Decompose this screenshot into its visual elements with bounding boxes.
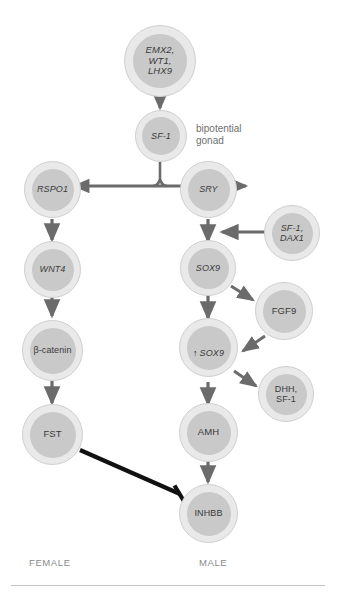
axis-label-female: FEMALE — [29, 557, 71, 568]
node-sf1-inner: SF-1 — [142, 117, 180, 155]
upregulation-arrow-icon: ↑ — [193, 348, 198, 358]
node-wnt4-label: WNT4 — [40, 264, 66, 274]
node-fgf9-label: FGF9 — [272, 306, 297, 317]
edge-fst-inhibits-inhbb — [80, 450, 180, 494]
node-amh-inner: AMH — [187, 411, 231, 455]
edge-sox9-to-fgf9 — [231, 286, 253, 300]
node-inhbb[interactable]: INHBB — [179, 484, 238, 543]
node-sry-inner: SRY — [188, 169, 230, 211]
node-dhh-sf1-label: DHH, SF-1 — [275, 384, 297, 404]
node-progenitor-inner: EMX2, WT1, LHX9 — [133, 34, 187, 88]
node-sox9-upregulated-label: ↑SOX9 — [193, 337, 224, 357]
edge-sox9up-to-dhhsf1 — [234, 371, 256, 386]
node-fst[interactable]: FST — [22, 404, 83, 465]
node-progenitor-label: EMX2, WT1, LHX9 — [145, 45, 174, 77]
node-beta-catenin-label: β-catenin — [33, 345, 71, 355]
node-fgf9-inner: FGF9 — [263, 290, 306, 333]
bottom-divider — [11, 585, 325, 586]
node-sox9-upregulated[interactable]: ↑SOX9 — [179, 318, 238, 377]
node-fgf9[interactable]: FGF9 — [255, 282, 313, 340]
node-rspo1[interactable]: RSPO1 — [24, 161, 81, 218]
node-amh[interactable]: AMH — [179, 403, 238, 462]
node-fst-label: FST — [43, 429, 61, 440]
node-rspo1-label: RSPO1 — [37, 184, 68, 194]
node-sox9-upregulated-inner: ↑SOX9 — [187, 326, 231, 370]
node-sry-label: SRY — [199, 184, 217, 194]
node-beta-catenin[interactable]: β-catenin — [22, 320, 83, 381]
pathway-diagram: EMX2, WT1, LHX9 SF-1 bipotential gonad R… — [0, 0, 338, 595]
node-amh-label: AMH — [198, 427, 219, 438]
node-dhh-sf1-inner: DHH, SF-1 — [266, 374, 307, 415]
node-beta-catenin-inner: β-catenin — [30, 328, 76, 374]
annotation-bipotential-gonad: bipotential gonad — [196, 123, 242, 147]
node-sox9[interactable]: SOX9 — [180, 240, 236, 296]
node-sf1-dax1-inner: SF-1, DAX1 — [272, 213, 313, 254]
node-wnt4[interactable]: WNT4 — [24, 241, 81, 298]
node-sf1-dax1[interactable]: SF-1, DAX1 — [264, 205, 320, 261]
node-sf1-label: SF-1 — [151, 131, 171, 141]
node-dhh-sf1[interactable]: DHH, SF-1 — [258, 366, 314, 422]
node-progenitor[interactable]: EMX2, WT1, LHX9 — [124, 25, 196, 97]
node-inhbb-inner: INHBB — [187, 492, 231, 536]
node-rspo1-inner: RSPO1 — [32, 169, 74, 211]
node-sox9-label: SOX9 — [196, 263, 220, 273]
node-sf1[interactable]: SF-1 — [135, 110, 187, 162]
node-sox9-upregulated-gene: SOX9 — [200, 348, 224, 358]
node-wnt4-inner: WNT4 — [32, 249, 74, 291]
node-sf1-dax1-label: SF-1, DAX1 — [280, 223, 304, 243]
node-sry[interactable]: SRY — [180, 161, 237, 218]
edge-fgf9-to-sox9up — [243, 336, 265, 351]
node-sox9-inner: SOX9 — [188, 248, 229, 289]
node-inhbb-label: INHBB — [194, 508, 222, 518]
axis-label-male: MALE — [199, 557, 227, 568]
node-fst-inner: FST — [30, 412, 76, 458]
